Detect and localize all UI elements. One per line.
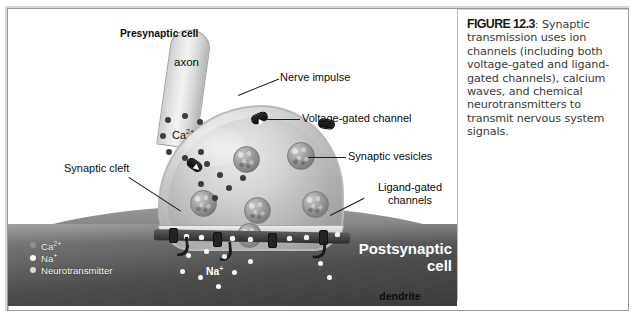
sodium-ion bbox=[216, 284, 221, 289]
label-ligand-gated-channels: Ligand-gated channels bbox=[360, 181, 457, 206]
calcium-ion bbox=[217, 172, 223, 178]
leader-line-synaptic-vesicles bbox=[308, 157, 346, 158]
sodium-ion bbox=[327, 275, 332, 280]
legend-label-neurotransmitter: Neurotransmitter bbox=[41, 265, 112, 276]
caption-divider bbox=[457, 9, 458, 301]
label-nerve-impulse: Nerve impulse bbox=[280, 71, 350, 83]
legend-swatch-neurotransmitter bbox=[30, 267, 36, 273]
calcium-ion bbox=[212, 195, 218, 201]
membrane-vesicle-dot bbox=[248, 237, 253, 242]
label-dendrite: dendrite bbox=[348, 290, 452, 302]
membrane-vesicle-dot bbox=[199, 235, 204, 240]
synaptic-vesicle bbox=[244, 197, 271, 224]
sodium-ion bbox=[248, 259, 253, 264]
label-postsynaptic-cell: Postsynaptic cell bbox=[324, 241, 452, 274]
caption-body: FIGURE 12.3: Synaptic transmission uses … bbox=[467, 18, 619, 139]
membrane-vesicle-dot bbox=[287, 236, 292, 241]
sodium-ion bbox=[222, 254, 227, 259]
calcium-ion bbox=[182, 113, 188, 119]
synapse-diagram: Ca2+ Na+ bbox=[8, 9, 457, 306]
label-presynaptic-cell: Presynaptic cell bbox=[120, 28, 198, 39]
postsynaptic-line-1: Postsynaptic bbox=[324, 241, 452, 258]
membrane-vesicle-dot bbox=[335, 232, 340, 237]
ligand-gated-line-1: Ligand-gated bbox=[360, 181, 457, 194]
leader-line-nerve-impulse bbox=[238, 79, 279, 96]
legend-label-sodium: Na+ bbox=[41, 251, 57, 264]
sodium-ion bbox=[180, 269, 185, 274]
calcium-ion bbox=[160, 133, 166, 139]
sodium-annotation: Na+ bbox=[206, 264, 223, 277]
calcium-ion bbox=[165, 117, 171, 123]
calcium-ion bbox=[204, 161, 210, 167]
calcium-ion bbox=[198, 181, 204, 187]
label-axon: axon bbox=[174, 56, 199, 68]
synaptic-vesicle bbox=[190, 190, 217, 217]
sodium-ion bbox=[204, 249, 209, 254]
calcium-ion bbox=[240, 175, 246, 181]
postsynaptic-line-2: cell bbox=[324, 258, 452, 275]
membrane-vesicle-dot bbox=[304, 235, 309, 240]
sodium-ion bbox=[198, 275, 203, 280]
calcium-annotation: Ca2+ bbox=[172, 127, 194, 141]
figure-page: Ca2+ Na+ bbox=[0, 0, 638, 321]
calcium-ion bbox=[226, 185, 232, 191]
legend-swatch-sodium bbox=[30, 255, 36, 261]
figure-number: FIGURE 12.3 bbox=[467, 17, 535, 31]
sodium-ion bbox=[318, 261, 323, 266]
label-synaptic-cleft: Synaptic cleft bbox=[64, 162, 129, 174]
sodium-ion bbox=[232, 270, 237, 275]
membrane-vesicle-dot bbox=[230, 236, 235, 241]
sodium-ion bbox=[186, 253, 191, 258]
legend-item: Na+ bbox=[30, 252, 112, 265]
ion-legend: Ca2+ Na+ Neurotransmitter bbox=[30, 239, 112, 277]
ligand-gated-line-2: channels bbox=[360, 194, 457, 207]
legend-item: Ca2+ bbox=[30, 239, 112, 252]
figure-caption: FIGURE 12.3: Synaptic transmission uses … bbox=[467, 18, 619, 139]
calcium-ion bbox=[198, 149, 204, 155]
synaptic-vesicle bbox=[302, 191, 329, 218]
calcium-ion bbox=[166, 149, 172, 155]
leader-line-voltage-gated-channel bbox=[266, 119, 300, 120]
synaptic-vesicle bbox=[287, 142, 315, 170]
legend-swatch-calcium bbox=[30, 242, 36, 248]
membrane-protein bbox=[268, 233, 277, 248]
calcium-ion bbox=[197, 119, 203, 125]
label-synaptic-vesicles: Synaptic vesicles bbox=[348, 150, 432, 162]
caption-sentence: Synaptic transmission uses ion channels … bbox=[467, 18, 609, 138]
legend-item: Neurotransmitter bbox=[30, 264, 112, 277]
synaptic-vesicle bbox=[233, 146, 260, 173]
legend-label-calcium: Ca2+ bbox=[41, 239, 61, 252]
label-voltage-gated-channel: Voltage-gated channel bbox=[302, 112, 411, 124]
